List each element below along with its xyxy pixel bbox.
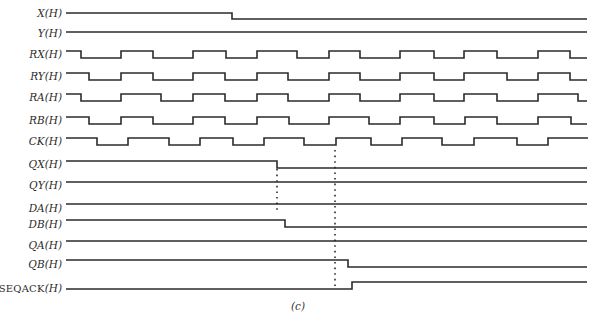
signal-label-ry: RY(H) [30,70,62,82]
waveforms [66,13,588,289]
waveform-qb [66,260,587,267]
signal-label-qx: QX(H) [29,158,62,170]
signal-label-da: DA(H) [29,202,62,214]
signal-label-rb: RB(H) [29,114,62,126]
waveform-ck [66,138,588,145]
waveform-rx [66,51,587,58]
signal-label-ra: RA(H) [29,91,62,103]
waveform-ry [66,73,587,80]
waveform-db [66,220,587,227]
waveform-qx [66,161,587,168]
signal-label-db: DB(H) [29,218,62,230]
signal-label-rx: RX(H) [29,48,62,60]
waveform-canvas [0,0,593,314]
signal-label-seqack: SEQACK(H) [0,282,62,295]
waveform-ra [66,94,587,101]
signal-label-qb: QB(H) [28,258,62,270]
signal-label-seqack-name: SEQACK [0,283,45,294]
signal-label-y: Y(H) [38,27,62,39]
waveform-x [66,13,587,19]
waveform-seqack [66,282,587,289]
timing-diagram: X(H) Y(H) RX(H) RY(H) RA(H) RB(H) CK(H) … [0,0,593,314]
waveform-rb [66,117,587,124]
figure-caption: (c) [291,300,305,312]
signal-label-x: X(H) [37,7,62,19]
signal-label-ck: CK(H) [29,135,62,147]
signal-label-qy: QY(H) [29,179,62,191]
signal-label-qa: QA(H) [28,239,62,251]
signal-label-seqack-suffix: (H) [45,282,62,294]
